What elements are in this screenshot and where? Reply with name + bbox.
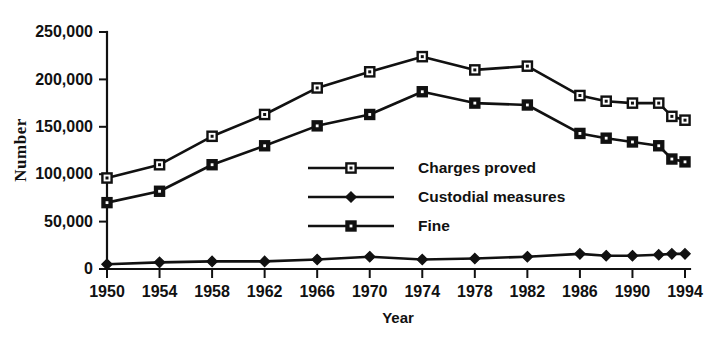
series-line bbox=[107, 57, 685, 178]
x-axis-tick-label: 1982 bbox=[510, 283, 546, 300]
y-axis-title: Number bbox=[11, 118, 30, 181]
data-point-marker bbox=[154, 257, 164, 267]
x-axis-tick-label: 1978 bbox=[457, 283, 493, 300]
line-chart: 050,000100,000150,000200,000250,000 1950… bbox=[0, 0, 708, 351]
data-point-marker bbox=[602, 134, 611, 143]
legend-label: Charges proved bbox=[418, 159, 536, 176]
data-point-marker bbox=[312, 254, 322, 264]
series-layer bbox=[102, 52, 690, 269]
data-point-marker bbox=[602, 97, 611, 106]
data-point-marker bbox=[575, 129, 584, 138]
x-axis-tick-label: 1966 bbox=[299, 283, 335, 300]
series-0 bbox=[102, 52, 689, 183]
data-point-marker bbox=[260, 110, 269, 119]
data-point-marker bbox=[627, 251, 637, 261]
y-axis-tick-label: 100,000 bbox=[35, 165, 93, 182]
data-point-marker bbox=[680, 249, 690, 259]
legend-item-2: Fine bbox=[308, 217, 450, 234]
chart-legend: Charges provedCustodial measuresFine bbox=[308, 159, 565, 234]
data-point-marker bbox=[207, 256, 217, 266]
data-point-marker bbox=[628, 137, 637, 146]
data-point-marker bbox=[365, 67, 374, 76]
x-axis-tick-label: 1950 bbox=[89, 283, 125, 300]
data-point-marker bbox=[667, 154, 676, 163]
data-point-marker bbox=[313, 83, 322, 92]
data-point-marker bbox=[654, 99, 663, 108]
y-axis: 050,000100,000150,000200,000250,000 bbox=[35, 23, 107, 277]
data-point-marker bbox=[207, 160, 216, 169]
data-point-marker bbox=[628, 99, 637, 108]
series-line bbox=[107, 254, 685, 264]
data-point-marker bbox=[575, 249, 585, 259]
data-point-marker bbox=[365, 110, 374, 119]
y-axis-tick-label: 150,000 bbox=[35, 118, 93, 135]
data-point-marker bbox=[260, 141, 269, 150]
data-point-marker bbox=[601, 251, 611, 261]
data-point-marker bbox=[102, 173, 111, 182]
data-point-marker bbox=[418, 87, 427, 96]
x-axis-tick-label: 1986 bbox=[562, 283, 598, 300]
data-point-marker bbox=[470, 253, 480, 263]
series-1 bbox=[102, 249, 690, 270]
data-point-marker bbox=[365, 251, 375, 261]
data-point-marker bbox=[523, 62, 532, 71]
y-axis-tick-label: 250,000 bbox=[35, 23, 93, 40]
data-point-marker bbox=[522, 251, 532, 261]
data-point-marker bbox=[667, 112, 676, 121]
x-axis-tick-label: 1954 bbox=[142, 283, 178, 300]
chart-page: 050,000100,000150,000200,000250,000 1950… bbox=[0, 0, 708, 351]
data-point-marker bbox=[680, 116, 689, 125]
y-axis-tick-label: 0 bbox=[84, 260, 93, 277]
y-axis-tick-label: 200,000 bbox=[35, 71, 93, 88]
legend-marker-icon bbox=[346, 163, 355, 172]
x-axis-tick-label: 1974 bbox=[404, 283, 440, 300]
data-point-marker bbox=[470, 65, 479, 74]
legend-label: Fine bbox=[418, 217, 450, 234]
data-point-marker bbox=[654, 141, 663, 150]
data-point-marker bbox=[155, 187, 164, 196]
data-point-marker bbox=[207, 132, 216, 141]
x-axis-tick-label: 1962 bbox=[247, 283, 283, 300]
legend-label: Custodial measures bbox=[418, 188, 565, 205]
data-point-marker bbox=[575, 91, 584, 100]
data-point-marker bbox=[680, 157, 689, 166]
x-axis-tick-label: 1958 bbox=[194, 283, 230, 300]
x-axis-title: Year bbox=[382, 309, 414, 326]
x-axis-tick-label: 1990 bbox=[615, 283, 651, 300]
legend-item-0: Charges proved bbox=[308, 159, 536, 176]
x-axis-tick-label: 1970 bbox=[352, 283, 388, 300]
x-axis: 1950195419581962196619701974197819821986… bbox=[89, 269, 703, 300]
data-point-marker bbox=[523, 100, 532, 109]
data-point-marker bbox=[259, 256, 269, 266]
data-point-marker bbox=[418, 52, 427, 61]
data-point-marker bbox=[667, 249, 677, 259]
data-point-marker bbox=[654, 250, 664, 260]
legend-marker-icon bbox=[346, 192, 356, 202]
data-point-marker bbox=[313, 121, 322, 130]
x-axis-tick-label: 1994 bbox=[667, 283, 703, 300]
legend-marker-icon bbox=[346, 221, 355, 230]
y-axis-tick-label: 50,000 bbox=[44, 213, 93, 230]
data-point-marker bbox=[470, 99, 479, 108]
legend-item-1: Custodial measures bbox=[308, 188, 565, 205]
data-point-marker bbox=[155, 160, 164, 169]
data-point-marker bbox=[417, 254, 427, 264]
data-point-marker bbox=[102, 198, 111, 207]
